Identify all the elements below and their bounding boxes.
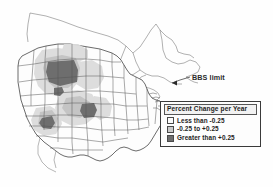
bbs-limit-arrowhead <box>172 81 177 86</box>
bbs-limit-label: BBS limit <box>192 74 225 81</box>
legend-label-greater-than: Greater than +0.25 <box>177 135 235 141</box>
legend-swatch-less-than <box>167 117 174 124</box>
legend-label-mid-range: -0.25 to +0.25 <box>177 126 219 132</box>
north-america-map <box>0 0 273 187</box>
legend-swatch-greater-than <box>167 135 174 142</box>
legend-item-less-than: Less than -0.25 <box>167 117 257 124</box>
legend-title: Percent Change per Year <box>164 104 257 115</box>
legend-swatch-mid-range <box>167 126 174 133</box>
figure-canvas: BBS limit Percent Change per Year Less t… <box>0 0 273 187</box>
legend-item-mid-range: -0.25 to +0.25 <box>167 126 257 133</box>
legend: Percent Change per Year Less than -0.25 … <box>160 101 261 147</box>
legend-label-less-than: Less than -0.25 <box>177 118 225 124</box>
legend-item-greater-than: Greater than +0.25 <box>167 135 257 142</box>
